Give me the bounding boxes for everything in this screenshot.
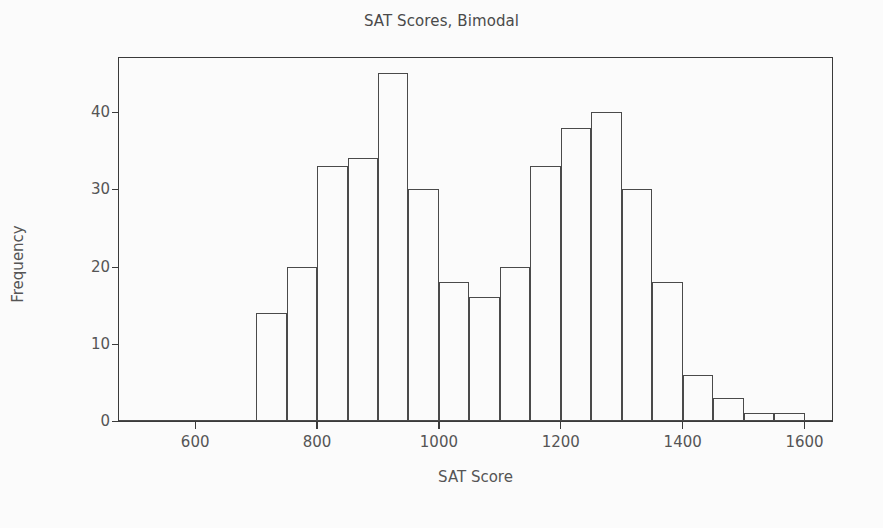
- histogram-bar: [317, 166, 347, 421]
- y-tick-mark: [112, 189, 119, 190]
- x-tick-label: 1200: [542, 433, 580, 451]
- histogram-bar: [652, 282, 682, 421]
- x-tick-mark: [316, 421, 317, 429]
- x-tick-label: 1000: [420, 433, 458, 451]
- x-tick-label: 600: [181, 433, 210, 451]
- y-axis-label: Frequency: [9, 225, 27, 303]
- histogram-bar: [591, 112, 621, 421]
- histogram-bar: [348, 158, 378, 421]
- x-tick-label: 1400: [664, 433, 702, 451]
- histogram-bar: [622, 189, 652, 421]
- y-tick-label: 40: [91, 103, 110, 121]
- x-tick-label: 800: [303, 433, 332, 451]
- y-tick-mark: [112, 344, 119, 345]
- x-tick-mark: [682, 421, 683, 429]
- x-axis-label: SAT Score: [118, 468, 833, 486]
- histogram-bar: [500, 267, 530, 421]
- y-tick-mark: [112, 267, 119, 268]
- histogram-bar: [439, 282, 469, 421]
- histogram-bars: [119, 58, 832, 421]
- y-tick-mark: [112, 421, 119, 422]
- histogram-bar: [378, 73, 408, 421]
- histogram-bar: [713, 398, 743, 421]
- x-tick-label: 1600: [785, 433, 823, 451]
- histogram-bar: [469, 297, 499, 421]
- x-tick-mark: [560, 421, 561, 429]
- y-tick-mark: [112, 112, 119, 113]
- x-tick-mark: [804, 421, 805, 429]
- y-tick-label: 20: [91, 258, 110, 276]
- x-tick-mark: [438, 421, 439, 429]
- histogram-bar: [683, 375, 713, 421]
- histogram-bar: [287, 267, 317, 421]
- chart-figure: SAT Scores, Bimodal Frequency 010203040 …: [0, 0, 883, 528]
- histogram-bar: [256, 313, 286, 421]
- y-tick-label: 0: [100, 412, 110, 430]
- histogram-bar: [561, 128, 591, 421]
- baseline-rule: [119, 420, 832, 421]
- histogram-bar: [530, 166, 560, 421]
- x-tick-mark: [195, 421, 196, 429]
- histogram-bar: [408, 189, 438, 421]
- plot-area: 010203040 6008001000120014001600: [118, 57, 833, 422]
- y-tick-label: 10: [91, 335, 110, 353]
- y-tick-label: 30: [91, 180, 110, 198]
- chart-title: SAT Scores, Bimodal: [0, 12, 883, 30]
